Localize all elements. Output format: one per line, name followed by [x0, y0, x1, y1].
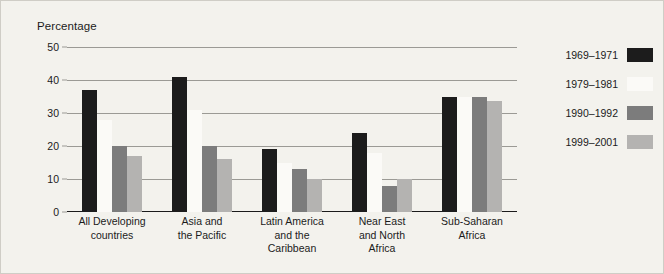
- legend-swatch: [627, 48, 653, 62]
- legend-item: 1990–1992: [541, 101, 653, 125]
- bar: [262, 149, 277, 212]
- y-axis-tick-label: 30: [47, 107, 59, 119]
- bar: [97, 120, 112, 212]
- y-axis-tick-label: 0: [53, 206, 59, 218]
- bar: [112, 146, 127, 212]
- category-label-line: All Developing: [68, 215, 156, 229]
- legend-label: 1979–1981: [565, 78, 618, 90]
- bar: [277, 163, 292, 213]
- legend-label: 1999–2001: [565, 136, 618, 148]
- bar: [82, 90, 97, 212]
- y-axis-tick-label: 20: [47, 140, 59, 152]
- bar: [397, 179, 412, 212]
- plot-area: 01020304050: [67, 47, 517, 212]
- y-axis-tick-label: 40: [47, 74, 59, 86]
- bar: [292, 169, 307, 212]
- bar: [457, 97, 472, 213]
- category-label-line: Latin America: [248, 215, 336, 229]
- y-axis-title: Percentage: [37, 20, 97, 32]
- bar-group: [67, 47, 157, 212]
- legend-label: 1990–1992: [565, 107, 618, 119]
- category-label-line: Near East: [338, 215, 426, 229]
- category-label-line: countries: [68, 229, 156, 243]
- x-axis-category-label: All Developingcountries: [67, 215, 157, 256]
- category-label-line: Africa: [428, 229, 516, 243]
- bar-groups: [67, 47, 517, 212]
- bar: [187, 110, 202, 212]
- category-label-line: and the: [248, 229, 336, 243]
- bar: [307, 179, 322, 212]
- category-label-line: and North: [338, 229, 426, 243]
- legend-label: 1969–1971: [565, 49, 618, 61]
- bar-group: [427, 47, 517, 212]
- chart-figure: Percentage 01020304050 All Developingcou…: [0, 0, 664, 274]
- x-axis-category-label: Latin Americaand theCaribbean: [247, 215, 337, 256]
- bar: [487, 101, 502, 212]
- legend-item: 1969–1971: [541, 43, 653, 67]
- legend-swatch: [627, 135, 653, 149]
- bar: [472, 97, 487, 213]
- legend-item: 1979–1981: [541, 72, 653, 96]
- category-label-line: the Pacific: [158, 229, 246, 243]
- legend-swatch: [627, 77, 653, 91]
- chart-legend: 1969–19711979–19811990–19921999–2001: [541, 43, 653, 159]
- bar: [127, 156, 142, 212]
- y-axis-tick-label: 10: [47, 173, 59, 185]
- bar: [367, 153, 382, 212]
- bar-group: [337, 47, 427, 212]
- x-axis-category-label: Asia andthe Pacific: [157, 215, 247, 256]
- category-label-line: Africa: [338, 242, 426, 256]
- legend-swatch: [627, 106, 653, 120]
- category-label-line: Caribbean: [248, 242, 336, 256]
- legend-item: 1999–2001: [541, 130, 653, 154]
- bar: [352, 133, 367, 212]
- category-label-line: Sub-Saharan: [428, 215, 516, 229]
- x-axis-category-label: Near Eastand NorthAfrica: [337, 215, 427, 256]
- bar: [442, 97, 457, 213]
- bar: [217, 159, 232, 212]
- bar-group: [157, 47, 247, 212]
- category-label-line: Asia and: [158, 215, 246, 229]
- x-axis-category-label: Sub-SaharanAfrica: [427, 215, 517, 256]
- bar: [382, 186, 397, 212]
- bar-group: [247, 47, 337, 212]
- y-axis-tick-label: 50: [47, 41, 59, 53]
- bar: [172, 77, 187, 212]
- x-axis-category-labels: All DevelopingcountriesAsia andthe Pacif…: [67, 215, 517, 256]
- bar: [202, 146, 217, 212]
